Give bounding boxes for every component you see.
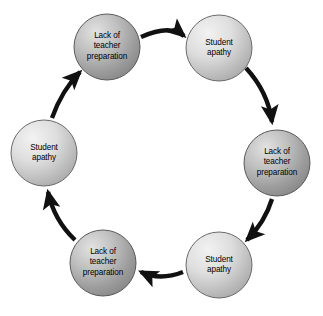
arrow-node2-to-node3 (246, 68, 272, 122)
node-circle-bottom-left (70, 230, 136, 296)
arrow-node3-to-node4 (247, 199, 272, 240)
arrow-node4-to-node5 (141, 272, 183, 277)
node-circle-top-right (186, 15, 252, 81)
node-circle-left (11, 120, 77, 186)
arrow-node6-to-node1 (52, 72, 80, 118)
cycle-diagram-canvas (0, 0, 323, 316)
node-circle-bottom-right (186, 232, 252, 298)
node-circle-right (244, 130, 310, 196)
node-circle-top-left (74, 14, 140, 80)
arrow-node1-to-node2 (141, 30, 184, 37)
arrow-node5-to-node6 (48, 192, 75, 240)
node-group (11, 14, 310, 298)
cycle-diagram: Lack of teacher preparation Student apat… (0, 0, 323, 316)
